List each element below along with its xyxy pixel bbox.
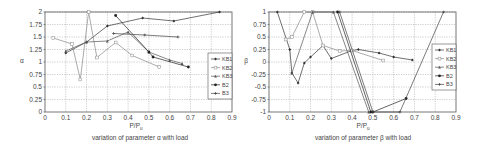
legend-label: KB2 (222, 65, 232, 71)
data-point (288, 48, 291, 51)
x-tick-label: 0.1 (285, 114, 294, 121)
data-point (438, 57, 441, 60)
legend-label: B2 (446, 73, 453, 79)
series-kb3 (64, 31, 183, 65)
alpha-caption: variation of parameter α with load (92, 134, 189, 142)
data-point (338, 50, 341, 53)
y-tick-label: 1.75 (29, 21, 42, 28)
y-tick-label: 0.25 (253, 46, 266, 53)
data-point (114, 14, 117, 17)
data-point (411, 59, 414, 62)
data-point (158, 66, 161, 69)
figure: 00.250.50.7511.251.51.75200.10.20.30.40.… (0, 0, 480, 150)
data-point (214, 66, 217, 69)
x-tick-label: 0.9 (227, 114, 236, 121)
x-tick-label: 0.3 (327, 114, 336, 121)
series-b2 (114, 14, 190, 68)
y-tick-label: 0.5 (257, 33, 266, 40)
y-tick-label: 0.5 (33, 83, 42, 90)
data-point (214, 83, 217, 86)
y-tick-label: 0 (38, 108, 42, 115)
y-tick-label: 0 (262, 58, 266, 65)
beta-x-label: P/Pu (357, 122, 370, 131)
data-point (382, 59, 385, 62)
data-point (87, 11, 90, 14)
data-point (112, 32, 115, 35)
data-point (64, 50, 67, 53)
legend-label: B3 (222, 90, 229, 96)
x-tick-label: 0.5 (368, 114, 377, 121)
x-tick-label: 0.5 (144, 114, 153, 121)
alpha-y-label: α (20, 57, 24, 64)
x-tick-label: 0.1 (61, 114, 70, 121)
data-point (438, 74, 441, 77)
data-point (79, 78, 82, 81)
data-point (52, 37, 55, 40)
x-tick-label: 0.7 (186, 114, 195, 121)
data-point (276, 11, 279, 14)
y-tick-label: 1 (262, 8, 266, 15)
alpha-x-label: P/Pu (130, 122, 143, 131)
y-tick-label: -0.5 (255, 83, 267, 90)
y-tick-label: 1.5 (33, 33, 42, 40)
x-tick-label: 0 (267, 114, 271, 121)
x-tick-label: 0.9 (451, 114, 460, 121)
alpha-chart: 00.250.50.7511.251.51.75200.10.20.30.40.… (29, 8, 237, 121)
data-point (187, 66, 190, 69)
y-tick-label: -0.25 (251, 71, 266, 78)
legend-label: KB3 (446, 64, 456, 70)
legend-label: KB3 (222, 73, 232, 79)
legend: KB1KB2KB3B2B3 (432, 44, 456, 90)
series-kb1 (276, 11, 414, 85)
beta-caption: variation of parameter β with load (315, 134, 412, 142)
x-tick-label: 0.4 (124, 114, 133, 121)
data-point (442, 11, 445, 14)
data-point (399, 111, 402, 114)
data-point (322, 44, 325, 47)
data-point (152, 56, 155, 59)
data-point (147, 51, 150, 54)
series-kb2 (52, 11, 161, 81)
x-tick-label: 0.8 (207, 114, 216, 121)
x-tick-label: 0 (43, 114, 47, 121)
y-tick-label: 0.25 (29, 96, 42, 103)
data-point (177, 36, 180, 39)
data-point (290, 36, 293, 39)
data-point (143, 34, 146, 37)
legend-label: KB1 (446, 47, 456, 53)
legend-label: KB1 (222, 56, 232, 62)
data-point (71, 43, 74, 46)
legend-label: B2 (222, 82, 229, 88)
y-tick-label: 0.75 (29, 71, 42, 78)
data-point (378, 52, 381, 55)
y-tick-label: 2 (38, 8, 42, 15)
data-point (357, 48, 360, 51)
legend-label: KB2 (446, 56, 456, 62)
data-point (218, 11, 221, 14)
legend: KB1KB2KB3B2B3 (208, 53, 232, 99)
data-point (172, 20, 175, 23)
beta-y-label: β (244, 57, 248, 65)
data-point (96, 56, 99, 59)
series-kb2 (284, 11, 384, 62)
data-point (392, 56, 395, 59)
data-point (338, 11, 341, 14)
data-point (284, 38, 287, 41)
data-point (127, 31, 130, 34)
x-tick-label: 0.4 (348, 114, 357, 121)
data-point (131, 54, 134, 57)
y-tick-label: 1.25 (29, 46, 42, 53)
y-tick-label: 0.75 (253, 21, 266, 28)
x-tick-label: 0.3 (103, 114, 112, 121)
y-tick-label: -0.75 (251, 96, 266, 103)
x-tick-label: 0.7 (410, 114, 419, 121)
y-tick-label: 1 (38, 58, 42, 65)
data-point (114, 41, 117, 44)
x-tick-label: 0.6 (389, 114, 398, 121)
grid (45, 12, 232, 112)
x-tick-label: 0.6 (165, 114, 174, 121)
legend-label: B3 (446, 81, 453, 87)
series-b3 (112, 32, 179, 38)
x-tick-label: 0.2 (82, 114, 91, 121)
y-tick-label: -1 (260, 108, 266, 115)
